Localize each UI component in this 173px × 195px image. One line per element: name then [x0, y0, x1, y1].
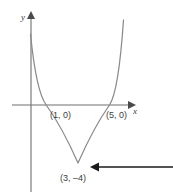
x-axis-label: x	[132, 106, 137, 116]
plot-canvas: y x (1, 0) (5, 0) (3, –4)	[0, 0, 173, 195]
vertex-label: (3, –4)	[60, 173, 86, 183]
y-axis-label: y	[20, 12, 25, 22]
parabola-curve	[31, 20, 124, 163]
parabola-figure: y x (1, 0) (5, 0) (3, –4)	[0, 0, 173, 195]
vertex-callout-arrowhead	[90, 163, 99, 172]
y-axis-arrowhead	[27, 11, 35, 19]
x-intercept-right-label: (5, 0)	[106, 110, 127, 120]
x-intercept-left-label: (1, 0)	[50, 110, 71, 120]
